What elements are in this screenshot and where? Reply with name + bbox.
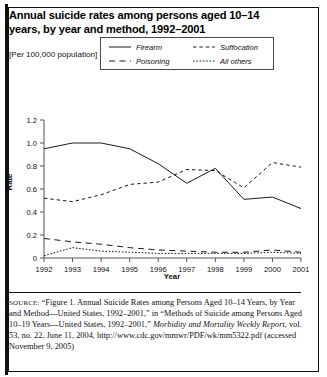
series-line-all-others bbox=[44, 248, 301, 256]
data-series-group bbox=[44, 143, 301, 256]
y-tick-label: 0.2 bbox=[26, 231, 37, 240]
series-line-poisoning bbox=[44, 238, 301, 252]
legend-label-poisoning: Poisoning bbox=[136, 57, 169, 66]
legend-item-all-others: All others bbox=[193, 54, 252, 68]
x-tick-label: 2000 bbox=[264, 265, 281, 274]
source-divider bbox=[9, 292, 301, 293]
figure-panel: Annual suicide rates among persons aged … bbox=[0, 0, 327, 377]
legend-label-suffocation: Suffocation bbox=[220, 43, 258, 52]
y-tick-label: 0.6 bbox=[26, 185, 37, 194]
x-tick-label: 1992 bbox=[36, 265, 53, 274]
x-tick-label: 1997 bbox=[178, 265, 195, 274]
series-line-firearm bbox=[44, 143, 301, 209]
chart-plot-area: 00.20.40.60.81.01.2 19921993199419951996… bbox=[0, 62, 309, 287]
legend-key-dashed-long-icon bbox=[109, 57, 131, 65]
y-tick-label: 0 bbox=[33, 254, 37, 263]
legend-item-firearm: Firearm bbox=[109, 40, 162, 54]
x-tick-label: 1999 bbox=[235, 265, 252, 274]
x-tick-label: 1995 bbox=[121, 265, 138, 274]
x-tick-label: 1994 bbox=[93, 265, 110, 274]
line-chart-svg: 00.20.40.60.81.01.2 19921993199419951996… bbox=[0, 62, 309, 287]
figure-units-note: [Per 100,000 population] bbox=[9, 50, 97, 59]
legend-item-suffocation: Suffocation bbox=[193, 40, 258, 54]
series-line-suffocation bbox=[44, 163, 301, 202]
x-tick-label: 2001 bbox=[293, 265, 309, 274]
source-label: SOURCE: bbox=[9, 299, 40, 306]
legend-key-dotted-icon bbox=[193, 57, 215, 65]
legend-key-solid-icon bbox=[109, 43, 131, 51]
source-publication-title: Morbidity and Mortality Weekly Report bbox=[153, 320, 285, 329]
y-tick-label: 1.2 bbox=[26, 116, 37, 125]
figure-title: Annual suicide rates among persons aged … bbox=[9, 8, 291, 36]
legend-item-poisoning: Poisoning bbox=[109, 54, 169, 68]
y-tick-label: 1.0 bbox=[26, 139, 37, 148]
y-tick-label: 0.4 bbox=[26, 208, 37, 217]
legend-label-firearm: Firearm bbox=[136, 43, 162, 52]
y-axis: 00.20.40.60.81.01.2 bbox=[26, 116, 44, 263]
legend-label-all-others: All others bbox=[220, 57, 252, 66]
source-note: SOURCE: “Figure 1. Annual Suicide Rates … bbox=[9, 297, 302, 352]
legend-key-dashed-short-icon bbox=[193, 43, 215, 51]
y-tick-label: 0.8 bbox=[26, 162, 37, 171]
chart-legend: Firearm Suffocation Poisoning All others bbox=[100, 37, 274, 70]
y-axis-title: Rate bbox=[5, 173, 14, 191]
x-axis-title: Year bbox=[164, 272, 180, 281]
x-tick-label: 1993 bbox=[64, 265, 81, 274]
x-tick-label: 1998 bbox=[207, 265, 224, 274]
